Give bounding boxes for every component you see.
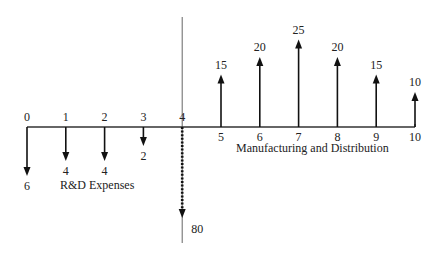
arrow-head: [24, 167, 31, 176]
arrow-head: [179, 209, 186, 218]
rd-expenses-label: R&D Expenses: [60, 178, 135, 192]
period-label: 10: [409, 130, 421, 144]
period-label: 4: [179, 110, 185, 124]
cash-flow-arrow: 15: [215, 58, 227, 128]
period-label: 1: [63, 110, 69, 124]
cash-flow-arrow: 10: [409, 75, 421, 127]
flow-value-label: 15: [370, 58, 382, 72]
arrow-head: [101, 152, 108, 161]
arrow-head: [140, 137, 147, 146]
flow-value-label: 6: [24, 179, 30, 193]
cash-flow-arrow: 25: [293, 23, 305, 128]
manufacturing-distribution-label: Manufacturing and Distribution: [236, 141, 389, 155]
period-label: 0: [24, 110, 30, 124]
arrow-head: [295, 40, 302, 49]
flow-value-label: 10: [409, 75, 421, 89]
cash-flow-arrow: 20: [254, 40, 266, 127]
period-label: 2: [102, 110, 108, 124]
arrow-head: [373, 75, 380, 84]
arrow-head: [218, 75, 225, 84]
arrow-head: [256, 57, 263, 66]
cash-flow-diagram: 644280152025201510 012345678910 R&D Expe…: [0, 0, 437, 256]
flow-value-label: 20: [331, 40, 343, 54]
cash-flow-arrow: 15: [370, 58, 382, 128]
cash-flow-chart: 644280152025201510 012345678910 R&D Expe…: [0, 0, 437, 256]
flow-value-label: 80: [191, 222, 203, 236]
flow-value-label: 4: [102, 164, 108, 178]
cash-flow-arrow: 2: [140, 127, 147, 163]
flow-value-label: 25: [293, 23, 305, 37]
cash-flow-arrow: 4: [62, 127, 69, 178]
cash-flow-arrow: 6: [24, 127, 31, 193]
flow-value-label: 2: [140, 149, 146, 163]
arrow-head: [412, 92, 419, 101]
flow-value-label: 20: [254, 40, 266, 54]
period-label: 3: [140, 110, 146, 124]
arrow-head: [62, 152, 69, 161]
cash-flow-arrow: 20: [331, 40, 343, 127]
flow-value-label: 15: [215, 58, 227, 72]
cash-flow-arrow: 4: [101, 127, 108, 178]
period-label: 5: [218, 130, 224, 144]
flow-value-label: 4: [63, 164, 69, 178]
arrow-head: [334, 57, 341, 66]
